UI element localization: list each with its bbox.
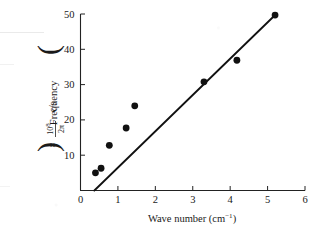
x-tick-label-1: 1: [115, 194, 120, 205]
x-tick-label-6: 6: [302, 194, 307, 205]
data-point: [98, 165, 105, 172]
x-axis-title-tail: ): [233, 213, 237, 225]
y-axis-times-symbol: ×: [47, 142, 58, 148]
data-point: [106, 142, 113, 149]
y-tick-label-30: 30: [64, 79, 75, 90]
y-axis-ticks: 1020304050: [64, 9, 85, 161]
x-tick-label-2: 2: [153, 194, 158, 205]
x-tick-label-3: 3: [190, 194, 195, 205]
y-axis-fraction-denominator: 2π: [57, 125, 66, 133]
y-tick-label-50: 50: [64, 9, 75, 20]
x-tick-label-5: 5: [265, 194, 270, 205]
data-point: [92, 169, 99, 176]
x-axis-title-main: Wave number (cm: [148, 213, 225, 225]
data-point: [131, 102, 138, 109]
y-axis-title-paren-group: (: [31, 45, 65, 55]
plot-area: [80, 14, 305, 191]
y-tick-label-40: 40: [64, 44, 75, 55]
paren-open-icon: (: [31, 45, 65, 55]
best-fit-line: [94, 14, 276, 191]
x-axis-ticks: 0123456: [78, 186, 308, 205]
x-axis-title: Wave number (cm−1): [148, 212, 237, 225]
y-axis-units: c/s: [48, 101, 58, 112]
data-point: [123, 125, 130, 132]
x-tick-label-0: 0: [78, 194, 83, 205]
y-tick-label-20: 20: [64, 114, 75, 125]
data-point: [272, 12, 279, 19]
data-point: [234, 57, 241, 64]
y-tick-label-10: 10: [64, 150, 75, 161]
frequency-vs-wavenumber-chart: 0123456 1020304050 Wave number (cm−1) Fr…: [0, 0, 312, 233]
data-point-series: [92, 12, 278, 177]
x-tick-label-4: 4: [228, 194, 234, 205]
svg-text:Wave number (cm−1): Wave number (cm−1): [148, 212, 237, 225]
data-point: [201, 78, 208, 85]
